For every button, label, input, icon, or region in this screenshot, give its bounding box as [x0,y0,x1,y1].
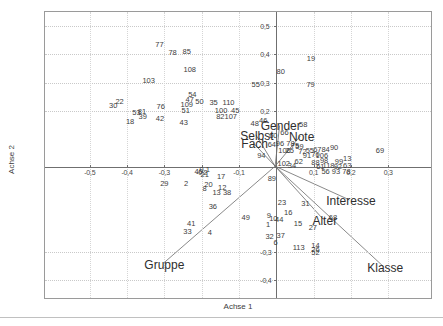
variable-label-fach: Fach [241,138,268,150]
data-point-label: 33 [183,228,191,236]
data-point-label: 78 [342,169,350,177]
gridline-horizontal [45,83,431,84]
data-point-label: 18 [126,118,134,126]
y-tick-mark [274,280,277,281]
data-point-label: 39 [139,113,147,121]
x-tick-label: -0,4 [121,169,132,176]
gridline-vertical [127,12,128,298]
data-point-label: 79 [306,81,314,89]
x-tick-mark [164,165,165,168]
data-point-label: 29 [160,180,168,188]
x-tick-label: -0,3 [159,169,170,176]
data-point-label: 51 [181,108,189,116]
variable-label-alter: Alter [312,215,337,227]
data-point-label: 41 [187,220,195,228]
x-tick-label: 0,3 [384,169,393,176]
x-tick-mark [239,165,240,168]
x-axis-title: Achse 1 [44,302,432,311]
data-point-label: 77 [155,42,163,50]
data-point-label: 13 [212,190,220,198]
data-point-label: 30 [109,102,117,110]
variable-label-klasse: Klasse [367,262,403,274]
data-point-label: 55 [252,81,260,89]
bottom-divider [0,317,443,318]
data-point-label: 31 [301,200,309,208]
x-tick-label: -0,5 [84,169,95,176]
data-point-label: 76 [156,103,164,111]
y-tick-label: 0,2 [260,107,269,114]
x-tick-mark [90,165,91,168]
data-point-label: 52 [311,250,319,258]
variable-label-gruppe: Gruppe [144,259,184,271]
data-point-label: 1 [266,221,270,229]
data-point-label: 50 [195,98,203,106]
data-point-label: 2 [184,180,188,188]
y-tick-mark [274,83,277,84]
data-point-label: 90 [330,144,338,152]
data-point-label: 34 [288,162,296,170]
y-tick-label: 0,3 [260,79,269,86]
data-point-label: 6 [273,239,277,247]
data-point-label: 42 [156,115,164,123]
data-point-label: 36 [209,203,217,211]
data-point-label: 108 [183,66,196,74]
gridline-horizontal [45,252,431,253]
gridline-vertical [90,12,91,298]
data-point-label: 44 [275,217,283,225]
data-point-label: 103 [142,77,155,85]
y-tick-label: -0,3 [260,249,271,256]
gridline-horizontal [45,26,431,27]
data-point-label: 25 [286,148,294,156]
y-tick-mark [274,54,277,55]
data-point-label: 69 [376,147,384,155]
data-point-label: 23 [278,200,286,208]
data-point-label: 80 [277,68,285,76]
data-point-label: 21 [201,171,209,179]
data-point-label: 49 [242,214,250,222]
data-point-label: 85 [183,48,191,56]
gridline-vertical [239,12,240,298]
variable-label-note: Note [289,131,314,143]
data-point-label: 94 [257,152,265,160]
data-point-label: 19 [307,56,315,64]
gridline-horizontal [45,54,431,55]
y-tick-mark [274,26,277,27]
y-tick-mark [274,252,277,253]
data-point-label: 82 [216,113,224,121]
data-point-label: 37 [277,233,285,241]
chart-frame: 0,50,40,30,2-0,3-0,4-0,5-0,4-0,3-0,2-0,1… [44,11,432,299]
data-point-label: 16 [284,209,292,217]
data-point-label: 43 [180,119,188,127]
y-tick-label: 0,4 [260,51,269,58]
data-point-label: 17 [217,173,225,181]
data-point-label: 78 [168,49,176,57]
gridline-vertical [164,12,165,298]
data-point-label: 93 [332,169,340,177]
x-tick-mark [127,165,128,168]
biplot-screenshot: 0,50,40,30,2-0,3-0,4-0,5-0,4-0,3-0,2-0,1… [0,0,443,326]
y-tick-label: 0,5 [260,23,269,30]
data-point-label: 38 [223,190,231,198]
x-tick-label: -0,1 [233,169,244,176]
data-point-label: 89 [268,175,276,183]
data-point-label: 8 [203,186,207,194]
data-point-label: 113 [293,244,305,252]
y-axis-title: Achse 2 [7,128,16,192]
data-point-label: 107 [225,113,238,121]
x-tick-mark [388,165,389,168]
data-point-label: 48 [250,121,258,129]
data-point-label: 15 [294,221,302,229]
variable-label-interesse: Interesse [326,195,375,207]
data-point-label: 4 [208,229,212,237]
y-tick-mark [274,111,277,112]
x-axis-line [45,167,431,168]
gridline-vertical [388,12,389,298]
plot-area: 0,50,40,30,2-0,3-0,4-0,5-0,4-0,3-0,2-0,1… [45,12,431,298]
gridline-horizontal [45,280,431,281]
y-tick-label: -0,4 [260,277,271,284]
gridline-vertical [202,12,203,298]
data-point-label: 56 [321,169,329,177]
data-point-label: 91 [303,152,311,160]
